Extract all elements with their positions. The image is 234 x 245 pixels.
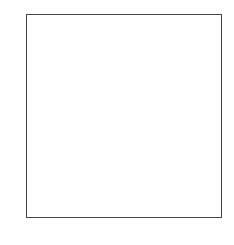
chess-board: [26, 14, 222, 218]
